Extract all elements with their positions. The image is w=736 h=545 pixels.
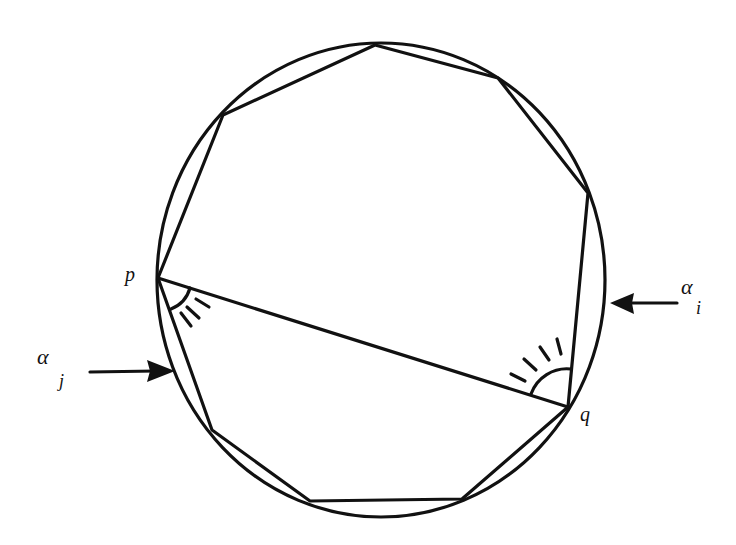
chord-pq: [158, 278, 568, 407]
arrow-alpha-j-shaft: [90, 371, 156, 372]
diagram-canvas: p q α i α j: [0, 0, 736, 545]
alpha-i-symbol: α: [681, 276, 693, 298]
angle-tick-q: [540, 347, 549, 360]
angle-arc-q: [531, 369, 571, 394]
angle-tick-q: [524, 359, 536, 370]
alpha-j-subscript: j: [59, 372, 64, 390]
alpha-j-symbol: α: [37, 346, 49, 368]
angle-tick-q: [557, 339, 561, 354]
angle-tick-p: [196, 299, 209, 307]
circle-polygon-diagram: [0, 0, 736, 545]
angle-tick-p: [181, 313, 191, 326]
point-label-q: q: [580, 404, 590, 424]
angle-tick-q: [511, 374, 525, 381]
angle-tick-p: [187, 307, 199, 318]
point-label-p: p: [125, 264, 135, 284]
arrow-alpha-i-head: [610, 293, 634, 314]
alpha-i-subscript: i: [696, 299, 701, 317]
